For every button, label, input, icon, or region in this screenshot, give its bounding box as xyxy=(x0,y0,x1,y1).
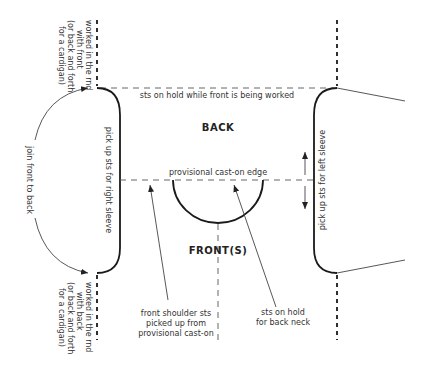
top-left-note: worked in the rnd with front (or back an… xyxy=(57,20,93,92)
bottom-left-note: worked in the rnd with back (or back and… xyxy=(57,282,93,354)
note-line: with back xyxy=(75,292,84,331)
join-label: join front to back xyxy=(25,145,34,214)
note-line: (or back and forth xyxy=(66,282,75,354)
note-line: for back neck xyxy=(256,318,310,327)
right-sleeve-label: pick up sts for right sleeve xyxy=(104,127,113,233)
front-label: FRONT(S) xyxy=(189,245,248,256)
join-arrow-top xyxy=(35,88,88,140)
front-shoulder-note: front shoulder sts picked up from provis… xyxy=(138,309,214,338)
note-line: for a cardigan) xyxy=(57,288,66,347)
neck-curve xyxy=(173,180,263,223)
note-line: worked in the rnd xyxy=(84,282,93,352)
provisional-edge-label: provisional cast-on edge xyxy=(169,168,267,177)
knitting-schematic: sts on hold while front is being worked … xyxy=(0,0,424,366)
note-line: (or back and forth xyxy=(66,20,75,92)
front-shoulder-arrow xyxy=(150,185,168,300)
note-line: front shoulder sts xyxy=(141,309,211,318)
note-line: sts on hold xyxy=(261,308,305,317)
note-line: picked up from xyxy=(146,319,206,328)
left-sleeve-bottom-line xyxy=(337,260,405,273)
note-line: for a cardigan) xyxy=(57,26,66,85)
note-line: worked in the rnd xyxy=(84,20,93,90)
note-line: provisional cast-on xyxy=(138,329,214,338)
top-edge-label: sts on hold while front is being worked xyxy=(140,91,294,100)
back-neck-note: sts on hold for back neck xyxy=(256,308,310,327)
join-arrow-bottom xyxy=(35,218,88,273)
left-sleeve-top-line xyxy=(337,88,405,101)
back-label: BACK xyxy=(202,122,235,133)
note-line: with front xyxy=(75,30,84,69)
left-sleeve-label: pick up sts for left sleeve xyxy=(318,130,327,231)
